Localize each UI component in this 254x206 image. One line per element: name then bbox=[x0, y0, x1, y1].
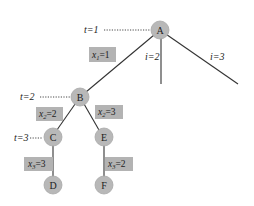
node-c: C bbox=[44, 128, 62, 146]
edge-a-b bbox=[80, 30, 160, 97]
level-label-t2: t=2 bbox=[20, 91, 35, 102]
node-e: E bbox=[95, 128, 113, 146]
edge-label-x2-2: x2=2 bbox=[36, 107, 63, 121]
node-f: F bbox=[95, 176, 113, 194]
svg-text:x3=2: x3=2 bbox=[107, 159, 126, 170]
svg-text:x2=3: x2=3 bbox=[97, 107, 116, 118]
node-b: B bbox=[71, 88, 89, 106]
edge-label-x2-3: x2=3 bbox=[95, 105, 123, 119]
branch-label-i3: i=3 bbox=[210, 51, 225, 62]
svg-text:C: C bbox=[50, 132, 57, 143]
edge-label-x3-2: x3=2 bbox=[105, 157, 133, 171]
edge-label-x1-1: x1=1 bbox=[89, 47, 116, 62]
svg-text:F: F bbox=[101, 180, 107, 191]
svg-text:E: E bbox=[101, 132, 107, 143]
svg-text:A: A bbox=[156, 25, 164, 36]
svg-text:x1=1: x1=1 bbox=[91, 50, 110, 61]
node-d: D bbox=[44, 176, 62, 194]
level-label-t1: t=1 bbox=[84, 24, 99, 35]
svg-text:x3=3: x3=3 bbox=[27, 159, 46, 170]
svg-text:x2=2: x2=2 bbox=[38, 109, 57, 120]
edge-label-x3-3: x3=3 bbox=[24, 157, 53, 171]
level-label-t3: t=3 bbox=[14, 132, 29, 143]
svg-text:D: D bbox=[49, 180, 56, 191]
svg-text:B: B bbox=[77, 92, 84, 103]
node-a: A bbox=[151, 21, 169, 39]
search-tree-diagram: x1=1 x2=2 x2=3 x3=3 x3=2 i=2 i=3 t=1 t=2… bbox=[0, 0, 254, 206]
branch-label-i2: i=2 bbox=[145, 51, 160, 62]
edge-a-i3 bbox=[160, 30, 238, 84]
